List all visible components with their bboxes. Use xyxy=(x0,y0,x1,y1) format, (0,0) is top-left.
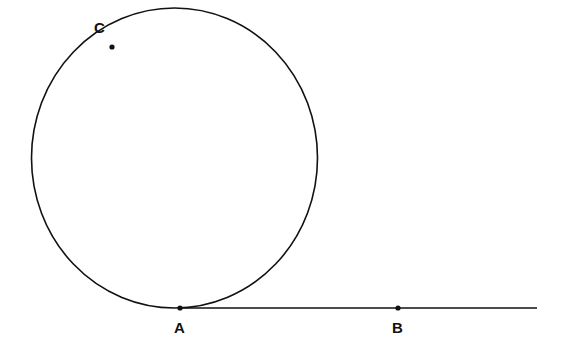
circle xyxy=(32,8,318,308)
label-c: C xyxy=(94,19,105,36)
geometry-diagram: A B C xyxy=(0,0,566,351)
point-a xyxy=(177,305,182,310)
label-b: B xyxy=(392,319,403,336)
point-b xyxy=(395,305,400,310)
point-c xyxy=(109,44,114,49)
label-a: A xyxy=(174,319,185,336)
